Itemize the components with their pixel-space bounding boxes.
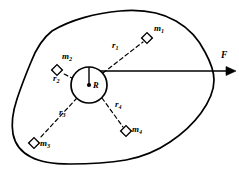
radius-label-R: R — [93, 81, 99, 90]
position-vector-r3 — [39, 98, 77, 139]
force-label: F — [221, 51, 227, 61]
mass-label-m1: m1 — [154, 24, 164, 34]
center-point-dot — [87, 83, 91, 87]
distance-label-r1: r1 — [112, 41, 119, 51]
mass-label-m2: m2 — [62, 52, 72, 62]
diagram-canvas — [0, 0, 239, 177]
mass-label-m3: m3 — [40, 139, 50, 149]
mass-marker-m3 — [29, 138, 40, 149]
mass-label-m4: m4 — [132, 125, 142, 135]
distance-label-r2: r2 — [53, 74, 60, 84]
distance-label-r4: r4 — [115, 100, 122, 110]
force-arrowhead-icon — [226, 67, 236, 76]
distance-label-r3: r3 — [59, 108, 66, 118]
physics-diagram-figure: F R m1 r1 m2 r2 m3 r3 m4 r4 — [0, 0, 239, 177]
position-vector-r1 — [103, 42, 143, 73]
mass-marker-m4 — [121, 126, 132, 137]
